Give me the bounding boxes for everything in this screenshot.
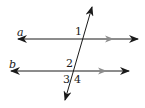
- angle-label-4: 4: [74, 73, 81, 86]
- angle-label-1: 1: [75, 25, 82, 38]
- label-line-b: b: [9, 58, 16, 71]
- label-line-a: a: [17, 26, 24, 39]
- angle-label-3: 3: [63, 73, 70, 86]
- transversal-line: [65, 7, 92, 100]
- angle-label-2: 2: [66, 57, 73, 70]
- parallel-lines-diagram: a b 1 2 3 4: [0, 0, 145, 108]
